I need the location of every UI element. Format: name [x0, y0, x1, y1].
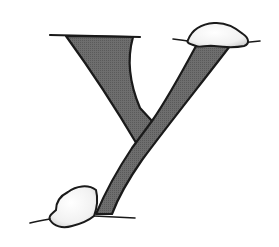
snowy-y-icon [0, 0, 279, 247]
bottom-snow-cap [49, 186, 97, 227]
top-snow-cap [187, 23, 248, 47]
left-arm [66, 36, 152, 146]
letter-y-illustration [0, 0, 279, 247]
